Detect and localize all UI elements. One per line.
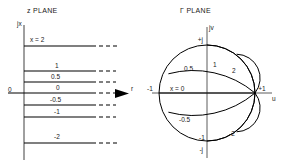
r-axis-arrow-head <box>115 89 129 98</box>
z-plane-title: z PLANE <box>27 7 58 14</box>
gamma-label-x-0: x = 0 <box>170 85 185 92</box>
impedance-to-gamma-plane-figure: z PLANE jx 0 x = 2 1 0.5 0 <box>0 0 287 168</box>
gamma-tick-minus-j: -j <box>199 146 203 154</box>
const-x-label-0point5: 0.5 <box>51 73 60 80</box>
gamma-plane-panel: Γ PLANE jv u -1 +1 +j -j x = 0 0.5 1 2 <box>147 7 276 158</box>
gamma-curve-label-neg2: -2 <box>229 130 235 137</box>
const-x-label-neg2: -2 <box>54 133 60 140</box>
const-x-line-2: x = 2 <box>24 36 118 46</box>
const-x-line-neg0point5: -0.5 <box>24 96 116 105</box>
const-x-label-neg1: -1 <box>54 108 60 115</box>
arc-x-neg2 <box>237 93 261 132</box>
const-x-line-neg1: -1 <box>24 108 116 117</box>
arc-x-2 <box>237 54 261 93</box>
z-plane-horizontal-axis-label: r <box>131 85 134 92</box>
arc-x-neg0point5 <box>168 93 255 115</box>
gamma-tick-plus-1: +1 <box>258 85 266 92</box>
gamma-curve-label-1: 1 <box>213 61 217 68</box>
gamma-tick-plus-j: +j <box>198 36 203 44</box>
const-x-line-0point5: 0.5 <box>24 73 116 82</box>
const-x-line-1: 1 <box>24 62 116 71</box>
gamma-curve-label-2: 2 <box>232 67 236 74</box>
gamma-tick-minus-1: -1 <box>147 85 153 92</box>
const-x-line-neg2: -2 <box>24 133 118 143</box>
arc-x-1 <box>207 45 255 93</box>
gamma-plane-horizontal-axis-label: u <box>272 95 276 102</box>
z-plane-origin-label: 0 <box>8 86 12 93</box>
gamma-curve-label-neg1: -1 <box>199 134 205 141</box>
gamma-curve-label-neg0point5: -0.5 <box>179 116 191 123</box>
const-x-line-0: 0 r <box>8 84 134 98</box>
const-x-label-neg0point5: -0.5 <box>50 96 62 103</box>
const-x-label-2: x = 2 <box>30 36 45 43</box>
const-x-label-0: 0 <box>56 84 60 91</box>
z-plane-vertical-axis-label: jx <box>16 20 22 28</box>
gamma-plane-title: Γ PLANE <box>180 7 211 14</box>
gamma-plane-vertical-axis-label: jv <box>208 24 214 32</box>
gamma-curve-label-0point5: 0.5 <box>184 65 193 72</box>
z-plane-panel: z PLANE jx 0 x = 2 1 0.5 0 <box>8 7 134 160</box>
const-x-label-1: 1 <box>55 62 59 69</box>
